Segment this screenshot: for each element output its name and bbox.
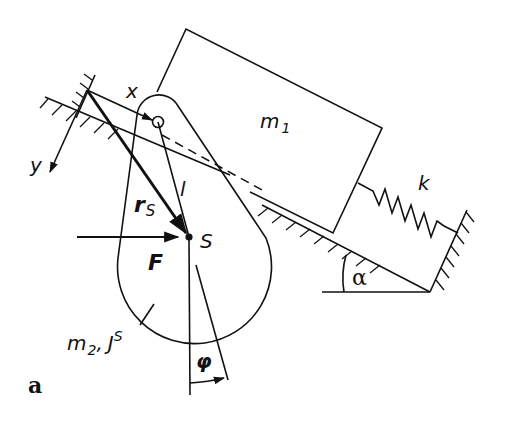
position-vector-label: rS: [134, 192, 156, 220]
force-label: F: [148, 250, 163, 275]
vertical-reference-line: [189, 240, 190, 395]
diagram-canvas: x y m1 k l rS S F m2,JS φ α a: [0, 0, 512, 429]
center-of-mass-point: [185, 233, 192, 240]
center-of-mass-label: S: [200, 229, 213, 253]
alpha-label: α: [352, 265, 367, 290]
length-label: l: [180, 177, 186, 201]
block-mass-label: m1: [260, 109, 290, 136]
phi-angle-arc: [190, 378, 224, 383]
m2-leader-line: [140, 304, 154, 325]
incline-dashed-line: [162, 135, 262, 190]
phi-label: φ: [196, 349, 212, 373]
panel-label: a: [28, 372, 42, 398]
pendulum-body: [118, 95, 272, 344]
pendulum-mass-label: m2,JS: [67, 328, 123, 358]
spring-k: [358, 183, 458, 237]
y-axis-label: y: [29, 153, 43, 177]
x-axis-label: x: [125, 79, 138, 103]
spring-label: k: [418, 171, 431, 195]
